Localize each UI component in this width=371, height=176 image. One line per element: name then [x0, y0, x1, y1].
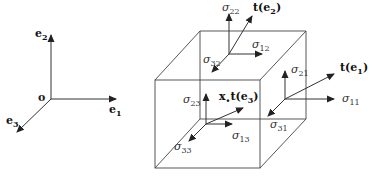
cube-edge-top-left	[155, 31, 200, 80]
sigma23-label: σ23	[183, 93, 201, 108]
basis-vectors: o e2 e1 e3	[6, 27, 122, 132]
sigma13-label: σ13	[232, 129, 250, 144]
t-e2-arrow	[229, 16, 252, 54]
right-face-stresses: σ21 t(e1) σ11 σ31	[268, 61, 368, 133]
sigma31-arrow	[268, 99, 285, 116]
stress-cube-diagram: o e2 e1 e3 σ22 t(e2) σ12 σ32 σ21	[0, 0, 371, 176]
e3-axis-arrow	[17, 99, 51, 132]
sigma22-label: σ22	[222, 1, 240, 16]
sigma31-label: σ31	[270, 118, 288, 133]
e2-label: e2	[35, 27, 48, 42]
sigma33-label: σ33	[174, 140, 192, 155]
sigma33-arrow	[189, 124, 206, 141]
sigma32-label: σ32	[203, 53, 221, 68]
e1-label: e1	[109, 103, 122, 118]
top-face-stresses: σ22 t(e2) σ12 σ32	[203, 1, 281, 72]
t-e1-label: t(e1)	[340, 61, 368, 76]
t-e1-arrow	[285, 74, 334, 99]
origin-label: o	[38, 91, 45, 104]
t-e3-arrow	[206, 108, 243, 124]
sigma12-label: σ12	[252, 38, 270, 53]
front-face-stresses: σ23 x.t(e3) σ13 σ33	[174, 89, 259, 155]
t-e2-label: t(e2)	[253, 1, 281, 16]
e3-label: e3	[6, 114, 19, 129]
sigma11-label: σ11	[342, 92, 360, 107]
x-t-e3-label: x.t(e3)	[219, 89, 259, 105]
